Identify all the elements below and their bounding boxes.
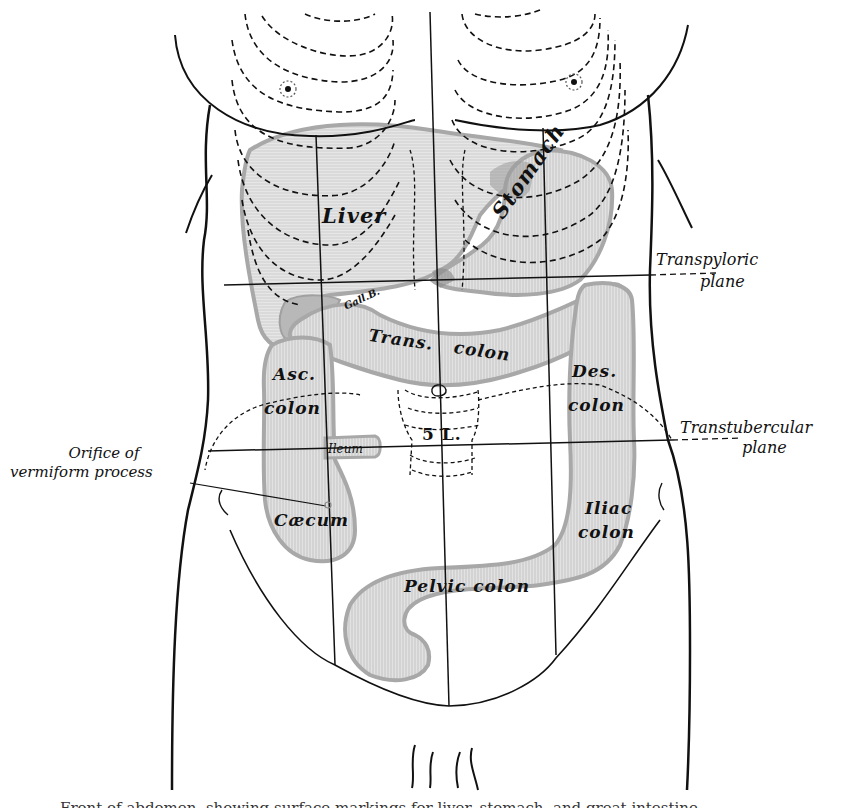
left-chest-arc [175, 35, 415, 136]
left-trunk-outline [172, 105, 210, 790]
label-pelvic-colon: Pelvic colon [404, 578, 530, 595]
label-iliac-colon: colon [578, 524, 635, 541]
figure-caption: Front of abdomen, showing surface markin… [60, 800, 840, 808]
label-transtubercular: Transtubercular [680, 420, 812, 436]
label-ileum: Ileum [328, 443, 363, 455]
label-iliac: Iliac [585, 500, 632, 517]
left-iliac-spine [219, 490, 228, 515]
right-arm-line [658, 160, 692, 228]
label-asc-colon: colon [264, 400, 321, 417]
abdomen-diagram [0, 0, 853, 808]
label-des: Des. [572, 363, 617, 380]
label-5L: 5 L. [422, 426, 462, 443]
label-transpyloric: Transpyloric [656, 252, 758, 268]
label-liver: Liver [322, 205, 386, 226]
right-trunk-outline [648, 95, 690, 790]
label-caecum: Cæcum [274, 512, 349, 529]
label-orifice-of: Orifice of [44, 446, 164, 461]
label-vermiform-process: vermiform process [10, 465, 153, 480]
genital-lines [412, 745, 478, 790]
label-transtubercular-plane: plane [742, 440, 787, 456]
label-asc: Asc. [273, 366, 316, 383]
label-transpyloric-plane: plane [700, 274, 745, 290]
label-des-colon: colon [568, 397, 625, 414]
right-iliac-spine [659, 483, 664, 510]
transtubercular-plane-dash [672, 438, 742, 440]
